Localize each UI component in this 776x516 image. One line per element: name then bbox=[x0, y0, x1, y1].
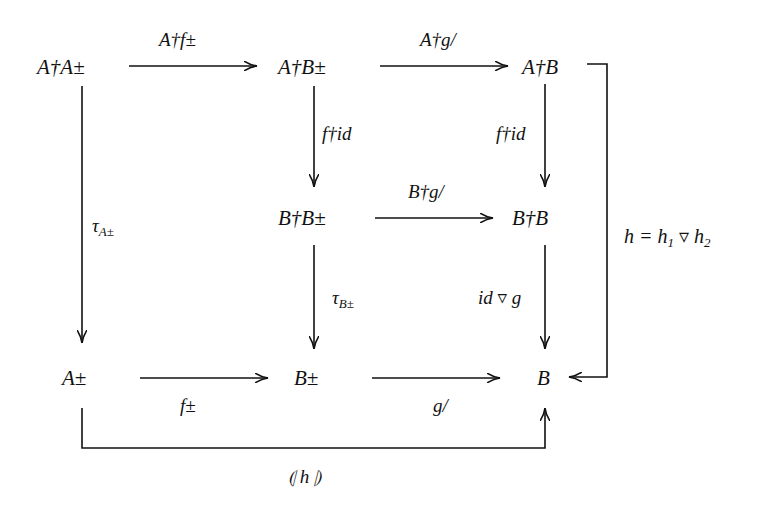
node-B-dag-B: B†B bbox=[512, 208, 548, 229]
label-A-dag-g-slash: A†g/ bbox=[420, 30, 456, 49]
tau-symbol: τ bbox=[332, 287, 339, 308]
node-B-bot: B± bbox=[294, 368, 318, 389]
h-def-sub2: 2 bbox=[704, 235, 711, 250]
label-f-dag-id-right: f†id bbox=[496, 124, 526, 143]
node-B: B bbox=[537, 368, 550, 389]
label-f-dag-id-left: f†id bbox=[322, 124, 352, 143]
label-h-definition: h = h1 ▿ h2 bbox=[624, 226, 711, 249]
h-def-mid: ▿ h bbox=[674, 225, 704, 247]
arrow-Abot-to-B-bracket bbox=[82, 408, 545, 448]
arrow-AdagB-to-B-bracket bbox=[569, 64, 607, 377]
label-tau-A-bot: τA± bbox=[92, 216, 114, 238]
node-A-dag-B-bot: A†B± bbox=[278, 57, 326, 78]
node-A-bot: A± bbox=[62, 368, 86, 389]
label-catamorphism: ⦇ h ⦈ bbox=[288, 467, 321, 486]
label-B-dag-g-slash: B†g/ bbox=[408, 182, 444, 201]
label-f-bot: f± bbox=[180, 396, 196, 415]
node-A-dag-B: A†B bbox=[522, 57, 558, 78]
label-tau-B-bot: τB± bbox=[332, 288, 354, 310]
tau-subscript: A± bbox=[99, 224, 114, 239]
h-def-main: h = h bbox=[624, 225, 668, 247]
tau-subscript: B± bbox=[339, 296, 354, 311]
label-g-slash: g/ bbox=[433, 396, 448, 415]
label-id-nabla-g: id ▿ g bbox=[478, 288, 521, 307]
node-B-dag-B-bot: B†B± bbox=[278, 208, 326, 229]
label-A-dag-f-bot: A†f± bbox=[159, 30, 196, 49]
tau-symbol: τ bbox=[92, 215, 99, 236]
node-A-dag-A-bot: A†A± bbox=[37, 57, 85, 78]
diagram-arrows bbox=[0, 0, 776, 516]
